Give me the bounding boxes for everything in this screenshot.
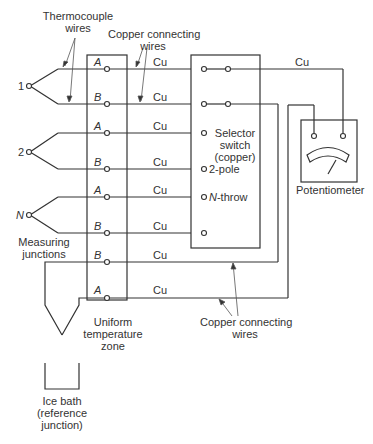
cu-label: Cu xyxy=(153,249,167,261)
measuring-junctions-label: Measuring junctions xyxy=(14,236,74,260)
n-throw-label: N-throw xyxy=(209,191,248,203)
copper-wires-label-top: Copper connecting wires xyxy=(108,28,198,52)
selector-switch-label: Selector switch (copper) xyxy=(210,127,260,163)
cu-label: Cu xyxy=(153,284,167,296)
thermocouple-wires-label: Thermocouple wires xyxy=(38,10,118,34)
thermocouple-n-wires xyxy=(30,197,58,233)
ice-bath-label: Ice bath (reference junction) xyxy=(34,395,90,431)
thermocouple-1-wires xyxy=(30,69,58,104)
cu-label: Cu xyxy=(153,120,167,132)
cu-label: Cu xyxy=(153,156,167,168)
wire-label-b: B xyxy=(94,220,101,232)
wire-label-a: A xyxy=(94,284,101,296)
cu-label-top: Cu xyxy=(295,56,309,68)
thermocouple-circuit-diagram xyxy=(0,0,373,444)
potentiometer-dial xyxy=(307,148,349,163)
wire-label-b: B xyxy=(94,156,101,168)
junction-1-label: 1 xyxy=(18,80,24,92)
ice-bath-container xyxy=(45,363,79,389)
junction-n-label: N xyxy=(16,209,24,221)
cu-label: Cu xyxy=(153,91,167,103)
wire-label-a: A xyxy=(94,120,101,132)
potentiometer-label: Potentiometer xyxy=(296,184,364,196)
potentiometer-needle xyxy=(328,160,336,174)
wire-label-b: B xyxy=(94,249,101,261)
junction-2-label: 2 xyxy=(18,146,24,158)
cu-label: Cu xyxy=(153,184,167,196)
wire-label-a: A xyxy=(94,184,101,196)
cu-label: Cu xyxy=(153,220,167,232)
wire-label-a: A xyxy=(94,56,101,68)
wire-label-b: B xyxy=(94,91,101,103)
thermocouple-2-wires xyxy=(30,133,58,169)
cu-label: Cu xyxy=(153,56,167,68)
copper-wires-label-bottom: Copper connecting wires xyxy=(200,316,290,340)
two-pole-label: 2-pole xyxy=(209,163,240,175)
uniform-zone-label: Uniform temperature zone xyxy=(82,316,144,352)
